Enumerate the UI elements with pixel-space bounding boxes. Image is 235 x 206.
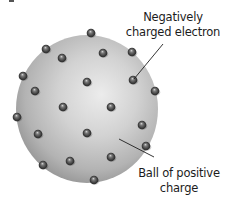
positive-ball-label-line2: charge (134, 181, 224, 196)
electron-icon (107, 153, 116, 162)
electron-icon (99, 49, 108, 58)
electron-icon (87, 29, 96, 38)
electron-icon (58, 54, 67, 63)
positive-ball-label: Ball of positive charge (134, 166, 224, 196)
electron-icon (107, 103, 116, 112)
electron-icon (59, 103, 68, 112)
electron-icon (34, 130, 43, 139)
positive-charge-ball (16, 35, 158, 183)
electron-icon (138, 121, 147, 130)
electron-icon (19, 72, 28, 81)
electron-label-line1: Negatively (124, 10, 222, 25)
electron-label: Negatively charged electron (124, 10, 222, 40)
electron-icon (128, 48, 137, 57)
electron-icon (83, 129, 92, 138)
electron-icon (39, 161, 48, 170)
electron-icon (90, 176, 99, 185)
electron-icon (142, 142, 151, 151)
electron-icon (42, 45, 51, 54)
electron-icon (66, 157, 75, 166)
electron-icon (83, 78, 92, 87)
electron-icon (13, 113, 22, 122)
electron-icon (151, 87, 160, 96)
electron-label-line2: charged electron (124, 25, 222, 40)
positive-ball-label-line1: Ball of positive (134, 166, 224, 181)
electron-icon (31, 87, 40, 96)
plum-pudding-diagram: Negatively charged electron Ball of posi… (0, 0, 235, 206)
